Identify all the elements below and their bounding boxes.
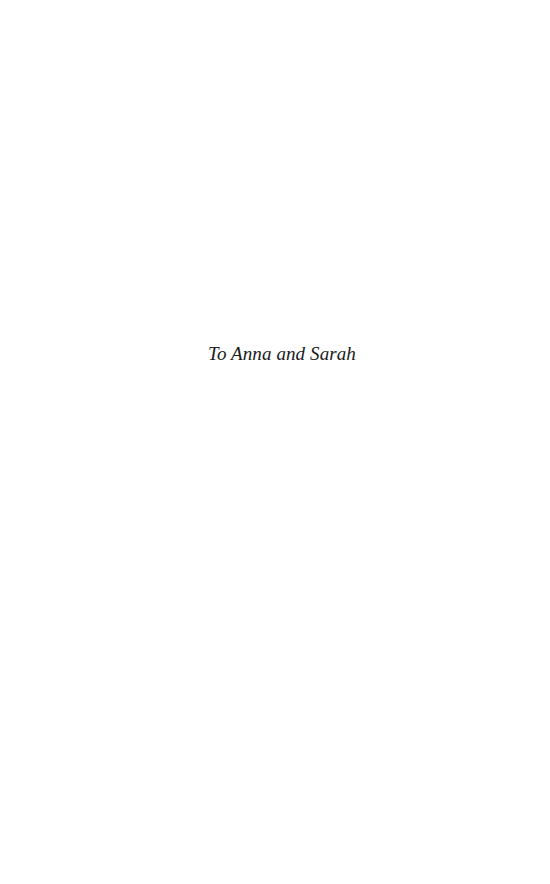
book-page: To Anna and Sarah <box>0 0 550 884</box>
dedication-text: To Anna and Sarah <box>0 343 550 365</box>
